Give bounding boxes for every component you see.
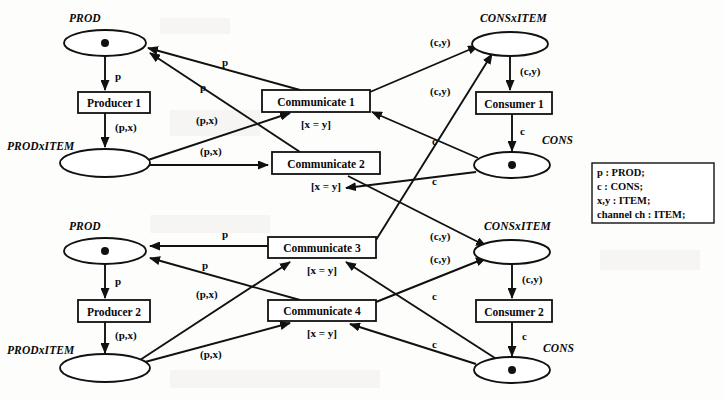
place-label: CONSxITEM (484, 220, 551, 232)
transition-communicate-4[interactable]: Communicate 4 [x = y] (268, 300, 376, 339)
transition-guard: [x = y] (311, 180, 341, 192)
place-proditem-2[interactable]: PRODxITEM (7, 344, 150, 382)
arc-inscription: c (432, 175, 437, 187)
place-proditem-1[interactable]: PRODxITEM (7, 140, 150, 177)
legend-line: channel ch : ITEM; (597, 209, 685, 220)
arc-communicate1-to-consitem1 (370, 46, 478, 92)
arc-communicate1-to-prod1 (148, 48, 300, 90)
arc-inscription: p (222, 228, 228, 240)
place-label: PRODxITEM (7, 344, 75, 356)
transition-label: Communicate 1 (277, 96, 355, 108)
arc-inscription: p (200, 81, 206, 93)
petri-net-graph: PROD PRODxITEM CONSxITEM CONS PROD PRODx… (0, 0, 724, 400)
place-label: CONSxITEM (480, 12, 547, 24)
declarations-legend: p : PROD; c : CONS; x,y : ITEM; channel … (592, 163, 714, 223)
transition-guard: [x = y] (307, 264, 337, 276)
arc-inscription: p (202, 259, 208, 271)
transition-label: Consumer 1 (484, 98, 544, 110)
place-label: CONS (543, 342, 574, 354)
arc-communicate2-to-consitem2 (348, 176, 486, 246)
figure-canvas: PROD PRODxITEM CONSxITEM CONS PROD PRODx… (0, 0, 724, 400)
arc-inscription: (c,y) (430, 36, 451, 49)
place-prod-1[interactable]: PROD (64, 12, 146, 56)
legend-line: c : CONS; (597, 181, 643, 192)
arc-inscription: p (222, 56, 228, 68)
transition-guard: [x = y] (307, 327, 337, 339)
transition-consumer-1[interactable]: Consumer 1 (476, 92, 552, 114)
transition-label: Producer 2 (87, 306, 141, 318)
arc-inscription: c (432, 338, 437, 350)
arc-inscription: p (115, 275, 121, 287)
arc-inscription: (p,x) (200, 348, 222, 361)
arc-inscription: (c,y) (522, 273, 543, 286)
transition-label: Communicate 3 (283, 242, 361, 254)
arc-inscription: (c,y) (520, 65, 541, 78)
transition-producer-1[interactable]: Producer 1 (78, 92, 150, 113)
arc-inscription: (p,x) (196, 288, 218, 301)
transition-guard: [x = y] (301, 118, 331, 130)
arc-communicate4-to-prod2 (150, 258, 300, 300)
place-label: CONS (542, 134, 573, 146)
arc-inscription: c (432, 135, 437, 147)
transition-label: Communicate 2 (287, 158, 365, 170)
transition-label: Producer 1 (87, 97, 141, 109)
legend-line: x,y : ITEM; (597, 195, 650, 206)
transition-label: Consumer 2 (484, 306, 544, 318)
arc-inscription: c (520, 125, 525, 137)
place-cons-2[interactable]: CONS (474, 342, 574, 383)
place-label: PROD (69, 12, 101, 24)
place-cons-1[interactable]: CONS (474, 134, 573, 178)
arc-inscription: (c,y) (430, 253, 451, 266)
transition-communicate-1[interactable]: Communicate 1 [x = y] (262, 90, 370, 130)
transition-label: Communicate 4 (283, 305, 361, 317)
arc-inscription: (p,x) (115, 121, 137, 134)
arc-inscription: c (432, 290, 437, 302)
arc-inscription: (p,x) (200, 145, 222, 158)
place-label: PROD (69, 220, 101, 232)
place-consitem-1[interactable]: CONSxITEM (472, 12, 548, 56)
transition-producer-2[interactable]: Producer 2 (78, 300, 150, 322)
arc-cons1-to-communicate1 (372, 112, 478, 158)
place-label: PRODxITEM (7, 140, 75, 152)
place-prod-2[interactable]: PROD (64, 220, 146, 264)
place-consitem-2[interactable]: CONSxITEM (474, 220, 551, 264)
arc-inscription: (c,y) (430, 230, 451, 243)
transition-consumer-2[interactable]: Consumer 2 (476, 300, 552, 322)
arc-inscription: c (522, 330, 527, 342)
arc-inscription: p (115, 70, 121, 82)
arc-cons2-to-communicate4 (350, 324, 476, 364)
arc-inscription: (p,x) (196, 114, 218, 127)
arc-inscription: (c,y) (430, 85, 451, 98)
arc-inscription: (p,x) (115, 329, 137, 342)
legend-line: p : PROD; (597, 167, 645, 178)
